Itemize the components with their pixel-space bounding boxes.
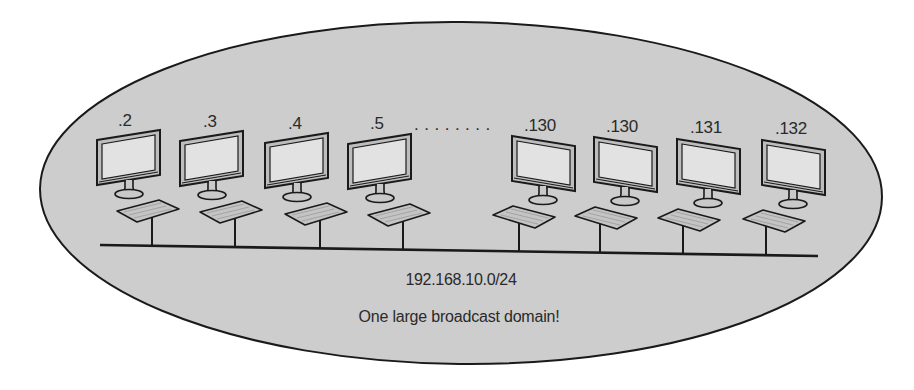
ellipsis-dots: ........ [414,115,496,134]
host-label: .4 [288,114,302,133]
network-address-label: 192.168.10.0/24 [405,271,517,288]
host-label: .132 [775,119,807,138]
host-label: .130 [524,116,556,135]
broadcast-domain-caption: One large broadcast domain! [359,308,560,325]
host-label: .3 [203,112,217,131]
host-label: .5 [370,114,384,133]
broadcast-domain-diagram: .2 .3 .4 .5 ........ .130 .130 .131 .132… [0,0,914,390]
host-label: .130 [606,117,638,136]
host-label: .2 [118,111,132,130]
host-label: .131 [690,118,722,137]
